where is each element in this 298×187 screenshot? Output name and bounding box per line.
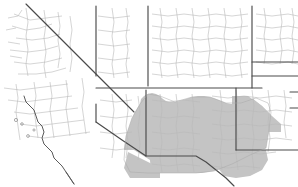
map-figure: Southwestern United States county map Ou… <box>0 0 298 187</box>
map-canvas <box>0 0 298 187</box>
